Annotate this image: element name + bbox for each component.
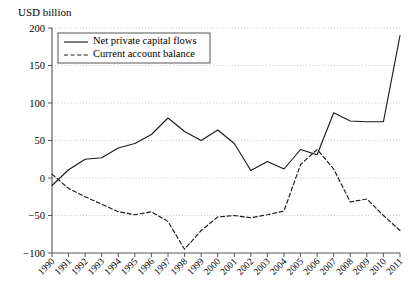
x-tick-label: 1996 — [136, 256, 157, 277]
y-tick-label: 0 — [40, 173, 45, 184]
x-tick-label: 2009 — [351, 256, 372, 277]
x-tick-label: 1998 — [169, 256, 190, 277]
x-axis-ticks: 1990199119921993199419951996199719981999… — [36, 253, 405, 277]
x-tick-label: 1995 — [119, 256, 140, 277]
x-tick-label: 2002 — [235, 256, 256, 277]
x-tick-label: 2007 — [318, 256, 339, 277]
x-tick-label: 1990 — [36, 256, 57, 277]
x-tick-label: 1994 — [102, 256, 123, 277]
y-tick-label: 150 — [29, 60, 45, 71]
x-tick-label: 2010 — [368, 256, 389, 277]
x-tick-label: 1992 — [69, 256, 90, 277]
data-series — [52, 36, 400, 250]
x-tick-label: 2011 — [384, 256, 404, 276]
x-tick-label: 1997 — [152, 256, 173, 277]
x-tick-label: 2001 — [218, 256, 239, 277]
y-axis-ticks: −100−50050100150200 — [23, 23, 52, 259]
chart-legend: Net private capital flowsCurrent account… — [58, 33, 210, 63]
x-tick-label: 2005 — [285, 256, 306, 277]
y-tick-label: 200 — [29, 23, 45, 34]
x-tick-label: 2004 — [268, 256, 289, 277]
y-tick-label: −50 — [29, 210, 45, 221]
chart-plot-area: −100−50050100150200 19901991199219931994… — [0, 0, 417, 296]
x-tick-label: 2006 — [301, 256, 322, 277]
x-tick-label: 1993 — [86, 256, 107, 277]
x-tick-label: 2008 — [334, 256, 355, 277]
legend-label-1: Net private capital flows — [93, 35, 197, 46]
y-tick-label: −100 — [23, 248, 45, 259]
x-tick-label: 2000 — [202, 256, 223, 277]
y-tick-label: 100 — [29, 98, 45, 109]
series-line-2 — [52, 150, 400, 250]
legend-label-2: Current account balance — [93, 48, 195, 59]
x-tick-label: 1999 — [185, 256, 206, 277]
x-tick-label: 2003 — [252, 256, 273, 277]
chart-figure: USD billion −100−50050100150200 19901991… — [0, 0, 417, 296]
y-tick-label: 50 — [35, 135, 46, 146]
x-tick-label: 1991 — [53, 256, 74, 277]
